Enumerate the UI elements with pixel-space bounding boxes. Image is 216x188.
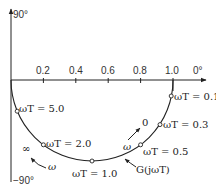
x-tick-label: 0.4: [69, 65, 83, 76]
marker-wT-2.0: [41, 143, 45, 147]
omega-to-zero-arrow: [128, 128, 140, 140]
omega-to-infinity-arrow: [31, 158, 46, 168]
label-wT-5.0: ωT = 5.0: [19, 103, 64, 114]
polar-plot: 0.2 0.4 0.6 0.8 1.0 0° 90° −90° ωT = 0.1…: [0, 0, 216, 188]
x-tick-label: 0.8: [133, 65, 147, 76]
omega-label-right: ω: [123, 141, 131, 152]
label-wT-2.0: ωT = 2.0: [46, 138, 91, 149]
marker-wT-0.5: [139, 143, 143, 147]
y-axis-top-label: 90°: [13, 9, 28, 20]
curve-label: G(jωT): [136, 164, 170, 175]
polar-plot-svg: 0.2 0.4 0.6 0.8 1.0 0° 90° −90° ωT = 0.1…: [0, 0, 216, 188]
label-wT-0.1: ωT = 0.1: [174, 91, 216, 102]
label-wT-0.5: ωT = 0.5: [143, 146, 188, 157]
y-axis-bottom-label: −90°: [13, 175, 34, 186]
marker-wT-0.1: [169, 94, 173, 98]
x-axis-end-label: 0°: [193, 65, 203, 76]
label-wT-0.3: ωT = 0.3: [163, 119, 208, 130]
x-tick-label: 1.0: [165, 65, 179, 76]
x-tick-label: 0.6: [101, 65, 115, 76]
curve-label-pointer: [125, 159, 136, 167]
x-tick-label: 0.2: [36, 65, 50, 76]
marker-wT-1.0: [90, 159, 94, 163]
omega-infinity-label: ∞: [22, 143, 30, 154]
omega-zero-label: 0: [142, 117, 148, 128]
label-wT-1.0: ωT = 1.0: [72, 168, 117, 179]
omega-label-left: ω: [48, 161, 56, 172]
marker-wT-0.3: [158, 123, 162, 127]
